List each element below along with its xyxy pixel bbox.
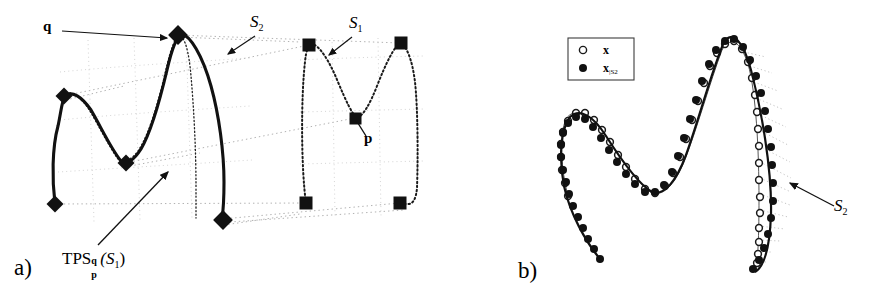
filled-circle-marker xyxy=(746,56,754,64)
tps-subscript-p: p xyxy=(91,269,97,280)
filled-circle-marker xyxy=(557,153,565,161)
filled-circle-marker xyxy=(749,265,757,273)
open-circle-marker xyxy=(755,126,762,133)
filled-circle-marker xyxy=(605,146,613,154)
filled-circle-marker xyxy=(767,214,775,222)
p-label-text: p xyxy=(364,130,372,146)
legend-open-circle-icon xyxy=(579,46,586,53)
panel-b-label: b) xyxy=(518,258,537,284)
s2-label-a-base: S xyxy=(250,12,259,31)
filled-circle-marker xyxy=(668,168,676,176)
open-circle-marker xyxy=(756,160,763,167)
s1-label-a: S1 xyxy=(349,13,363,34)
filled-circle-marker xyxy=(721,37,729,45)
filled-circle-marker xyxy=(660,181,668,189)
s1-label-a-base: S xyxy=(349,13,358,32)
filled-circle-marker xyxy=(680,134,688,142)
open-circle-marker xyxy=(757,194,764,201)
figure-root: a) b) q S2 S1 p TPSqp(S1) S2 x x|S2 xyxy=(0,0,896,294)
filled-circle-marker xyxy=(755,256,763,264)
filled-circle-marker xyxy=(674,152,682,160)
filled-circle-marker xyxy=(562,178,570,186)
panel-a-label-text: a) xyxy=(14,255,32,280)
filled-circle-marker xyxy=(579,224,587,232)
panel-a-label: a) xyxy=(14,255,32,281)
filled-circle-marker xyxy=(564,119,572,127)
filled-circle-marker xyxy=(569,202,577,210)
landmark-square xyxy=(303,39,316,52)
filled-circle-marker xyxy=(692,96,700,104)
filled-circle-marker xyxy=(698,77,706,85)
filled-circle-marker xyxy=(565,190,573,198)
s2-label-b: S2 xyxy=(834,196,848,217)
filled-circle-marker xyxy=(712,46,720,54)
tps-label-open-paren: (S xyxy=(100,249,114,268)
legend-entry-x-restricted-label: x|S2 xyxy=(603,61,618,76)
filled-circle-marker xyxy=(574,213,582,221)
open-circle-marker xyxy=(756,225,763,232)
filled-circle-marker xyxy=(581,115,589,123)
s2-label-b-sub: 2 xyxy=(843,206,848,217)
s1-label-a-sub: 1 xyxy=(358,23,363,34)
open-circle-marker xyxy=(756,239,763,246)
legend-entry-x-restricted-sub: |S2 xyxy=(609,68,618,76)
filled-circle-marker xyxy=(764,125,772,133)
filled-circle-marker xyxy=(572,113,580,121)
filled-circle-marker xyxy=(767,143,775,151)
filled-circle-marker xyxy=(760,244,768,252)
filled-circle-marker xyxy=(622,170,630,178)
legend-entry-x-text: x xyxy=(603,43,609,57)
open-circle-marker xyxy=(756,143,763,150)
legend-frame xyxy=(568,38,634,80)
filled-circle-marker xyxy=(651,188,659,196)
filled-circle-marker xyxy=(739,43,747,51)
filled-circle-marker xyxy=(769,179,777,187)
q-label-text: q xyxy=(43,18,51,34)
landmark-square xyxy=(395,37,408,50)
tps-superscript-q: q xyxy=(91,255,97,266)
legend-filled-circle-icon xyxy=(579,64,587,72)
landmark-square xyxy=(350,113,362,125)
filled-circle-marker xyxy=(730,35,738,43)
filled-circle-marker xyxy=(589,123,597,131)
landmark-square xyxy=(300,197,313,210)
open-circle-marker xyxy=(756,177,763,184)
filled-circle-marker xyxy=(769,197,777,205)
filled-circle-marker xyxy=(761,107,769,115)
filled-circle-marker xyxy=(613,158,621,166)
filled-circle-marker xyxy=(590,245,598,253)
s2-label-a: S2 xyxy=(250,12,264,33)
filled-circle-marker xyxy=(557,141,565,149)
q-label: q xyxy=(43,18,51,35)
filled-circle-marker xyxy=(757,89,765,97)
open-circle-marker xyxy=(757,210,764,217)
filled-circle-marker xyxy=(584,235,592,243)
filled-circle-marker xyxy=(631,180,639,188)
filled-circle-marker xyxy=(641,188,649,196)
landmark-square xyxy=(394,197,407,210)
tps-label-base: TPS xyxy=(62,249,91,268)
filled-circle-marker xyxy=(752,72,760,80)
s2-label-a-sub: 2 xyxy=(259,22,264,33)
tps-label: TPSqp(S1) xyxy=(62,249,125,270)
filled-circle-marker xyxy=(764,230,772,238)
panel-b-label-text: b) xyxy=(518,258,537,283)
filled-circle-marker xyxy=(768,161,776,169)
filled-circle-marker xyxy=(686,115,694,123)
filled-circle-marker xyxy=(705,60,713,68)
tps-label-close-paren: ) xyxy=(119,249,125,268)
figure-canvas xyxy=(0,0,896,294)
filled-circle-marker xyxy=(559,166,567,174)
filled-circle-marker xyxy=(596,255,604,263)
legend-entry-x-label: x xyxy=(603,43,609,58)
p-label: p xyxy=(364,130,372,147)
s2-label-b-base: S xyxy=(834,196,843,215)
filled-circle-marker xyxy=(597,134,605,142)
filled-circle-marker xyxy=(559,129,567,137)
